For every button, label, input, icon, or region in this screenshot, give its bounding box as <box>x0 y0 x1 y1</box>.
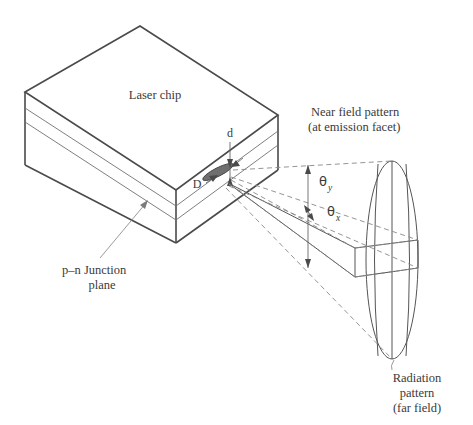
laser-diode-radiation-diagram: d D <box>0 0 473 425</box>
laser-chip-body <box>25 26 278 243</box>
angle-dimension-theta-x: θ x <box>304 204 341 223</box>
laser-chip-label: Laser chip <box>129 88 181 102</box>
junction-label-line2: plane <box>88 278 116 292</box>
theta-x-symbol: θ <box>327 204 335 219</box>
near-field-label-line1: Near field pattern <box>311 105 400 119</box>
diagram-canvas: d D <box>0 0 473 425</box>
d-label: d <box>227 126 233 140</box>
theta-y-subscript: y <box>327 183 333 193</box>
theta-y-arrow-bottom <box>305 259 311 268</box>
beam-slab-outline <box>355 240 418 277</box>
near-field-label-line2: (at emission facet) <box>308 120 400 134</box>
radiation-label-line1: Radiation <box>393 371 442 385</box>
theta-y-arrow-top <box>305 165 311 174</box>
radiation-leader-line <box>391 360 394 370</box>
radiation-label-line2: pattern <box>400 386 435 400</box>
radiation-leader <box>391 360 394 370</box>
D-label: D <box>193 177 202 191</box>
theta-x-subscript: x <box>335 213 341 223</box>
theta-y-symbol: θ <box>319 174 327 189</box>
radiation-label-line3: (far field) <box>393 401 441 415</box>
far-field-inner-arc-right <box>406 164 410 356</box>
far-field-inner-arc-left <box>375 164 379 356</box>
radiation-ray-bundle <box>226 161 418 359</box>
far-field-radiation-ellipse <box>366 161 418 359</box>
junction-word: Junction <box>81 263 127 277</box>
theta-x-arrow-upper <box>304 205 311 213</box>
junction-label-line1: p–n Junction <box>62 263 127 277</box>
